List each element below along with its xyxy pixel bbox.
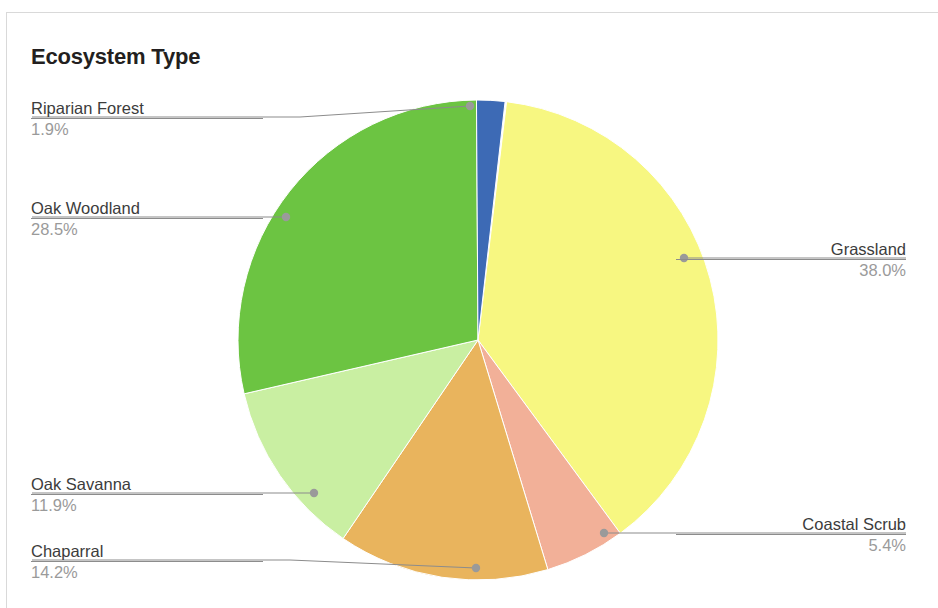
callout-label-coastal-scrub: Coastal Scrub 5.4% [676,514,906,556]
callout-name-coastal-scrub: Coastal Scrub [676,514,906,534]
callout-label-oak-woodland: Oak Woodland 28.5% [31,198,263,240]
pie-slice-group [238,100,718,580]
leader-dot-coastal-scrub [600,529,608,537]
callout-pct-oak-woodland: 28.5% [31,219,263,240]
callout-name-chaparral: Chaparral [31,541,263,561]
leader-dot-oak-woodland [282,213,290,221]
pie-chart-figure: Ecosystem Type Riparian Forest 1 [0,0,938,608]
callout-label-oak-savanna: Oak Savanna 11.9% [31,474,263,516]
callout-label-chaparral: Chaparral 14.2% [31,541,263,583]
leader-dot-oak-savanna [310,489,318,497]
callout-pct-grassland: 38.0% [676,260,906,281]
callout-label-grassland: Grassland 38.0% [676,239,906,281]
callout-pct-chaparral: 14.2% [31,562,263,583]
callout-name-oak-woodland: Oak Woodland [31,198,263,218]
leader-dot-riparian-forest [466,102,474,110]
callout-name-riparian-forest: Riparian Forest [31,98,263,118]
callout-name-grassland: Grassland [676,239,906,259]
callout-pct-riparian-forest: 1.9% [31,119,263,140]
callout-name-oak-savanna: Oak Savanna [31,474,263,494]
leader-dot-chaparral [472,564,480,572]
callout-pct-oak-savanna: 11.9% [31,495,263,516]
callout-pct-coastal-scrub: 5.4% [676,535,906,556]
callout-label-riparian-forest: Riparian Forest 1.9% [31,98,263,140]
